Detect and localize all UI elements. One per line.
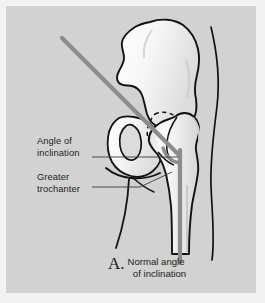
label-angle-of-inclination: Angle of inclination xyxy=(37,136,79,159)
soft-tissue-contour xyxy=(211,27,218,260)
ischium-pubic-ramus xyxy=(106,168,160,248)
ilium xyxy=(117,20,199,129)
label-greater-trochanter: Greater trochanter xyxy=(37,172,80,195)
anatomy-figure: Angle of inclination Greater trochanter … xyxy=(0,0,265,303)
caption-text: Normal angle of inclination xyxy=(128,256,187,279)
caption-letter: A. xyxy=(108,255,125,272)
figure-caption: A. Normal angle of inclination xyxy=(108,256,186,279)
